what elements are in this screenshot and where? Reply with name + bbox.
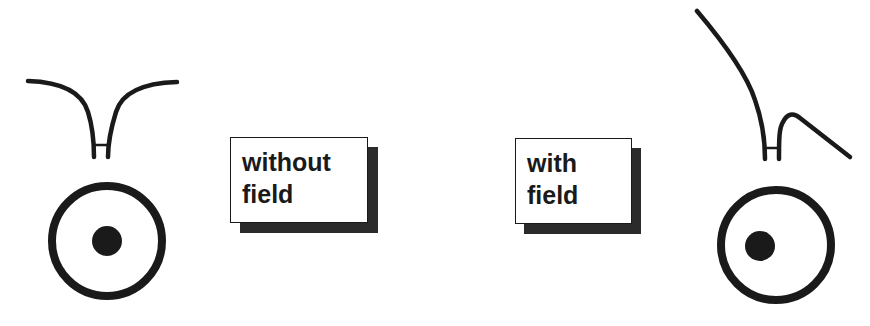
with-field-label: with field [527, 147, 578, 211]
right-target-icon [721, 190, 831, 300]
diagram-canvas: without field with field [0, 0, 870, 326]
diagram-artwork [0, 0, 870, 326]
left-electrodes-icon [28, 81, 177, 157]
left-target-icon [52, 186, 162, 296]
without-field-label: without field [242, 146, 331, 210]
right-electrodes-icon [697, 11, 850, 159]
